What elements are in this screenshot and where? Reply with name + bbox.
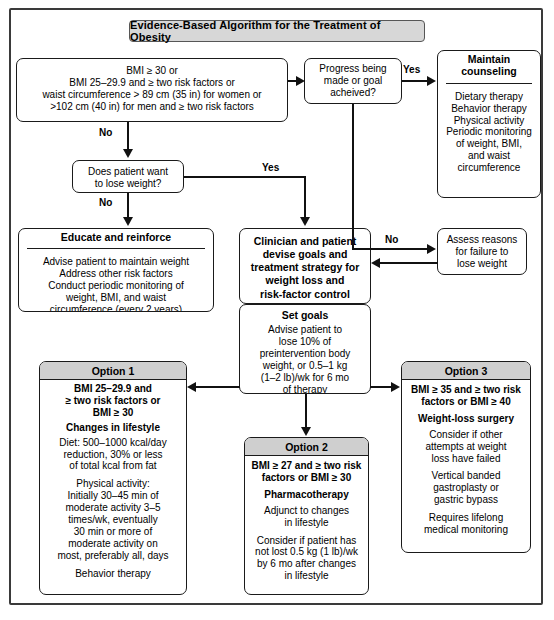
educate-line-3: Conduct periodic monitoring of (24, 280, 208, 292)
arrowhead-criteria-to-want (123, 149, 133, 158)
maintain-divider (446, 83, 532, 84)
option1-activity-6: moderate activity on (45, 538, 181, 550)
option3-monitor-1: Requires lifelong (407, 512, 525, 524)
maintain-header-2: counseling (438, 65, 540, 77)
set-goals-box: Set goals Advise patient to lose 10% of … (239, 304, 371, 394)
clinician-line-1: Clinician and patient (245, 235, 365, 248)
option3-monitor-2: medical monitoring (407, 524, 525, 536)
option3-surgery-1: Vertical banded (407, 470, 525, 482)
option3-header: Option 3 (402, 362, 530, 380)
edge-label-yes-progress: Yes (403, 64, 420, 75)
criteria-line-1: BMI ≥ 30 or (22, 65, 282, 77)
option2-box: Option 2 BMI ≥ 27 and ≥ two risk factors… (244, 437, 369, 595)
option3-subhead: Weight-loss surgery (407, 408, 525, 425)
clinician-line-3: treatment strategy for (245, 261, 365, 274)
option2-adjunct-2: in lifestyle (250, 517, 363, 529)
option1-subhead: Changes in lifestyle (45, 419, 181, 434)
option3-consider-2: attempts at weight (407, 441, 525, 453)
criteria-line-4: >102 cm (40 in) for men and ≥ two risk f… (22, 101, 282, 113)
edge-progress-to-maintain (402, 80, 429, 82)
edge-want-yes-horizontal (184, 176, 305, 178)
setgoals-header: Set goals (240, 305, 370, 324)
want-lose-line-2: to lose weight? (78, 178, 178, 190)
want-lose-weight-box: Does patient want to lose weight? (72, 160, 184, 193)
want-lose-line-1: Does patient want (78, 166, 178, 178)
clinician-line-4: weight loss and (245, 274, 365, 287)
option1-diet-1: Diet: 500–1000 kcal/day (45, 437, 181, 449)
option1-diet-3: of total kcal from fat (45, 460, 181, 472)
arrowhead-setgoals-to-option3 (391, 382, 400, 392)
educate-reinforce-box: Educate and reinforce Advise patient to … (18, 228, 214, 312)
flowchart-page: Evidence-Based Algorithm for the Treatme… (0, 0, 554, 620)
edge-want-to-educate (127, 193, 129, 218)
option1-criteria-2: ≥ two risk factors or (45, 395, 181, 407)
edge-criteria-to-want (127, 122, 129, 150)
setgoals-line-2: lose 10% of (245, 336, 365, 348)
maintain-line-5: of weight, BMI, (443, 138, 535, 150)
arrowhead-setgoals-to-option1 (187, 382, 196, 392)
maintain-line-3: Physical activity (443, 115, 535, 127)
option3-consider-3: loss have failed (407, 453, 525, 465)
option1-criteria-3: BMI ≥ 30 (45, 407, 181, 419)
progress-box: Progress being made or goal acheived? (304, 58, 402, 104)
option1-activity-5: 30 min or more of (45, 526, 181, 538)
setgoals-line-5: (1–2 lb)/wk for 6 mo (245, 372, 365, 384)
option3-consider-1: Consider if other (407, 429, 525, 441)
maintain-counseling-box: Maintain counseling Dietary therapy Beha… (437, 50, 541, 198)
option1-activity-3: moderate activity 3–5 (45, 502, 181, 514)
edge-label-no-criteria: No (99, 127, 112, 138)
clinician-line-5: risk-factor control (245, 288, 365, 301)
progress-line-2: made or goal (310, 75, 396, 87)
edge-want-yes-vertical (304, 176, 306, 218)
option2-consider-4: in lifestyle (250, 570, 363, 582)
option3-surgery-2: gastroplasty or (407, 482, 525, 494)
edge-setgoals-to-option1 (196, 386, 240, 388)
option2-consider-1: Consider if patient has (250, 535, 363, 547)
option2-consider-2: not lost 0.5 kg (1 lb)/wk (250, 546, 363, 558)
edge-assess-to-clinician (380, 262, 438, 264)
criteria-line-2: BMI 25–29.9 and ≥ two risk factors or (22, 77, 282, 89)
arrowhead-setgoals-to-option2 (301, 427, 311, 436)
option1-diet-2: reduction, 30% or less (45, 449, 181, 461)
option1-activity-4: times/wk, eventually (45, 514, 181, 526)
option1-activity-2: Initially 30–45 min of (45, 490, 181, 502)
option2-criteria-1: BMI ≥ 27 and ≥ two risk (250, 460, 363, 472)
criteria-line-3: waist circumference > 89 cm (35 in) for … (22, 89, 282, 101)
educate-line-4: weight, BMI, and waist (24, 292, 208, 304)
edge-progress-no-horizontal (352, 248, 429, 250)
option3-criteria-1: BMI ≥ 35 and ≥ two risk (407, 384, 525, 396)
maintain-line-1: Dietary therapy (443, 91, 535, 103)
edge-progress-no-vertical (352, 104, 354, 250)
assess-line-2: for failure to (443, 246, 521, 258)
maintain-header-1: Maintain (438, 53, 540, 65)
progress-line-3: acheived? (310, 87, 396, 99)
arrowhead-progress-no-to-assess (427, 244, 436, 254)
setgoals-line-4: weight, or 0.5–1 kg (245, 360, 365, 372)
option1-activity-7: most, preferably all, days (45, 550, 181, 562)
setgoals-line-3: preintervention body (245, 348, 365, 360)
educate-divider (27, 248, 205, 249)
setgoals-line-6: of therapy (245, 384, 365, 394)
edge-label-no-progress: No (385, 234, 398, 245)
edge-setgoals-to-option3 (370, 386, 392, 388)
educate-line-5: circumference (every 2 years) (24, 304, 208, 312)
arrowhead-assess-to-clinician (371, 258, 380, 268)
assess-line-1: Assess reasons (443, 234, 521, 246)
arrowhead-progress-to-maintain (427, 76, 436, 86)
educate-line-2: Address other risk factors (24, 268, 208, 280)
maintain-line-4: Periodic monitoring (443, 126, 535, 138)
maintain-line-2: Behavior therapy (443, 103, 535, 115)
edge-label-no-want: No (99, 197, 112, 208)
educate-header: Educate and reinforce (19, 229, 213, 246)
maintain-line-7: circumference (443, 162, 535, 174)
educate-line-1: Advise patient to maintain weight (24, 256, 208, 268)
clinician-line-2: devise goals and (245, 248, 365, 261)
option3-surgery-3: gastric bypass (407, 494, 525, 506)
page-title: Evidence-Based Algorithm for the Treatme… (129, 20, 425, 42)
arrowhead-want-to-educate (123, 217, 133, 226)
option1-box: Option 1 BMI 25–29.9 and ≥ two risk fact… (39, 361, 187, 595)
arrowhead-criteria-to-progress (296, 76, 305, 86)
option1-behavior-1: Behavior therapy (45, 568, 181, 580)
progress-line-1: Progress being (310, 63, 396, 75)
option2-criteria-2: factors or BMI ≥ 30 (250, 472, 363, 484)
